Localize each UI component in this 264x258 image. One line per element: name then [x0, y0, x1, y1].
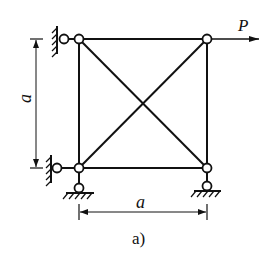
joint-top-left	[75, 35, 84, 44]
figure-caption: a)	[132, 229, 145, 248]
support-bottom-left-wall	[46, 155, 79, 186]
load-arrow: P	[212, 16, 259, 39]
joint-bottom-right	[203, 164, 212, 173]
width-label: a	[136, 192, 145, 212]
load-label: P	[237, 16, 248, 35]
joint-bottom-left	[75, 164, 84, 173]
truss-figure: P a a a)	[0, 0, 264, 258]
truss-members	[79, 39, 207, 168]
joint-top-right	[203, 35, 212, 44]
height-label: a	[15, 94, 35, 103]
truss-diagram: P a a a)	[0, 0, 264, 258]
